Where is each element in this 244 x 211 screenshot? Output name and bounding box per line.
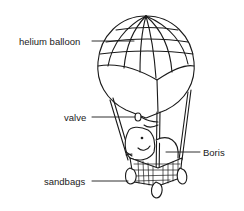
label-helium-balloon: helium balloon: [19, 36, 80, 47]
label-boris: Boris: [203, 147, 225, 158]
label-valve: valve: [64, 112, 86, 123]
balloon-diagram: [0, 0, 244, 211]
label-sandbags: sandbags: [44, 176, 85, 187]
boris-character: [125, 127, 178, 160]
balloon-envelope: [98, 16, 195, 118]
